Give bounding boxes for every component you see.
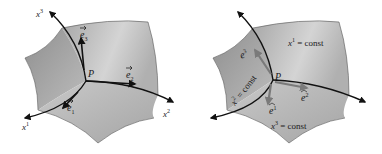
covariant-basis-diagram: P x3 x2 x1 e3 e2 e1 [0,0,191,154]
point-label: P [87,68,94,79]
x2-axis-label: x2 [162,108,170,119]
point-label: P [274,71,281,82]
x3-axis-label: x3 [35,8,43,19]
x1-axis-label: x1 [21,121,29,132]
contravariant-basis-diagram: P x1 = const x2 = const x3 = const e3 e2… [191,0,382,154]
